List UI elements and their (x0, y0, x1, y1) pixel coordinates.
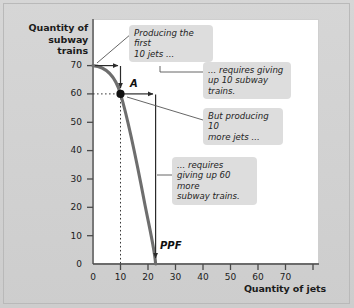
callout-requires-giving-up-60-more-trains: ... requires giving up 60 more subway tr… (172, 157, 257, 205)
x-tick-30: 30 (166, 272, 186, 282)
ppf-curve-label: PPF (160, 240, 182, 251)
callout-but-producing-10-more-jets: But producing 10 more jets ... (203, 108, 283, 145)
x-tick-marks (121, 264, 314, 270)
callout-requires-giving-up-10-trains: ... requires giving up 10 subway trains. (203, 62, 291, 99)
x-tick-70: 70 (276, 272, 296, 282)
x-tick-40: 40 (193, 272, 213, 282)
guide-lines (93, 94, 121, 264)
y-axis-title: Quantity of subway trains (8, 22, 88, 57)
y-tick-70: 70 (62, 60, 82, 70)
point-a-label: A (130, 78, 138, 89)
y-tick-20: 20 (62, 202, 82, 212)
point-a-marker (116, 90, 124, 98)
callout-producing-first-10-jets: Producing the first 10 jets ... (129, 25, 213, 62)
y-tick-marks (87, 66, 93, 236)
y-tick-0: 0 (62, 259, 82, 269)
x-tick-60: 60 (248, 272, 268, 282)
y-tick-50: 50 (62, 117, 82, 127)
y-tick-40: 40 (62, 145, 82, 155)
y-tick-60: 60 (62, 88, 82, 98)
x-tick-50: 50 (221, 272, 241, 282)
x-tick-20: 20 (138, 272, 158, 282)
x-axis-title: Quantity of jets (196, 283, 326, 295)
y-tick-10: 10 (62, 231, 82, 241)
y-tick-30: 30 (62, 174, 82, 184)
figure-container: Quantity of subway trains Quantity of je… (0, 0, 354, 308)
x-tick-10: 10 (111, 272, 131, 282)
x-tick-0: 0 (83, 272, 103, 282)
